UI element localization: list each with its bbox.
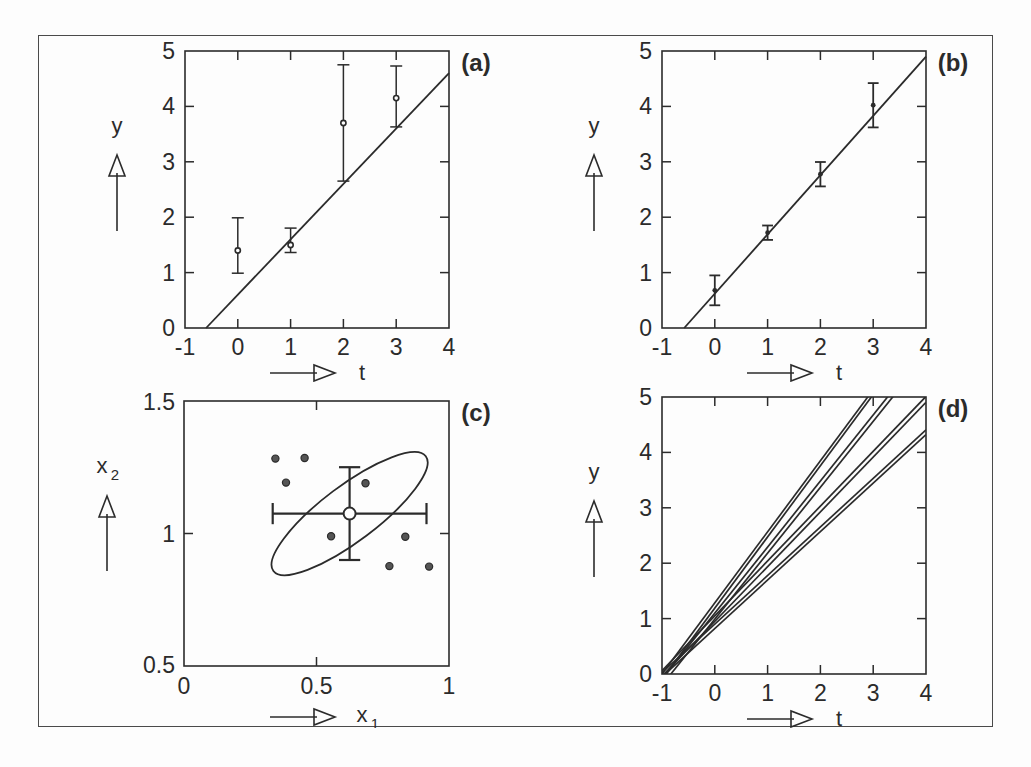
- svg-text:x: x: [357, 702, 368, 727]
- svg-text:0: 0: [639, 315, 652, 341]
- panel-d-svg: -1 0 1 2 3 4 0 1 2 3 4 5 y: [516, 381, 994, 728]
- y-tick-labels: 0 1 2 3 4 5: [639, 384, 652, 687]
- panel-d: -1 0 1 2 3 4 0 1 2 3 4 5 y: [516, 381, 994, 728]
- center-open-circle-marker: [344, 508, 356, 520]
- data-points: [712, 103, 875, 293]
- error-bars: [232, 65, 402, 273]
- x-axis-ticks: [238, 51, 396, 328]
- x-axis-open-arrow-right-icon: [747, 711, 812, 727]
- y-tick-labels: 0 1 2 3 4 5: [639, 38, 652, 341]
- svg-text:1: 1: [443, 673, 456, 699]
- x-axis-label: t: [836, 706, 842, 728]
- x-tick-labels: -1 0 1 2 3 4: [652, 680, 933, 706]
- svg-text:1: 1: [162, 260, 175, 286]
- svg-text:4: 4: [443, 334, 456, 360]
- y-axis-open-arrow-up-icon: [586, 155, 602, 231]
- svg-text:2: 2: [814, 680, 827, 706]
- panel-label-b: (b): [938, 49, 969, 76]
- panel-a-svg: -1 0 1 2 3 4 0 1 2 3 4 5 y: [39, 36, 517, 382]
- svg-text:4: 4: [920, 334, 933, 360]
- y-axis-ticks: [185, 106, 449, 272]
- y-axis-label: y: [589, 113, 600, 138]
- fit-line: [684, 57, 926, 328]
- y-tick-labels: 0 1 2 3 4 5: [162, 38, 175, 341]
- svg-text:3: 3: [867, 334, 880, 360]
- x-axis-ticks: [715, 397, 873, 674]
- svg-text:-1: -1: [652, 680, 672, 706]
- panel-b-svg: -1 0 1 2 3 4 0 1 2 3 4 5 y: [516, 36, 994, 382]
- x-axis-label: x 1: [357, 702, 380, 728]
- y-axis-open-arrow-up-icon: [99, 496, 115, 571]
- svg-text:1: 1: [371, 715, 379, 728]
- svg-text:2: 2: [639, 204, 652, 230]
- panel-a: -1 0 1 2 3 4 0 1 2 3 4 5 y: [39, 36, 517, 382]
- x-tick-labels: 0 0.5 1: [178, 673, 456, 699]
- y-axis-ticks: [662, 452, 926, 618]
- svg-text:5: 5: [162, 38, 175, 64]
- svg-text:0: 0: [231, 334, 244, 360]
- x-axis-label: t: [359, 360, 365, 382]
- figure-outer-border: -1 0 1 2 3 4 0 1 2 3 4 5 y: [38, 35, 993, 727]
- panel-label-a: (a): [461, 49, 490, 76]
- x-tick-labels: -1 0 1 2 3 4: [652, 334, 933, 360]
- x-axis-ticks: [715, 51, 873, 328]
- svg-text:1: 1: [639, 606, 652, 632]
- fit-line: [206, 73, 449, 328]
- svg-text:5: 5: [639, 38, 652, 64]
- svg-text:2: 2: [814, 334, 827, 360]
- y-axis-label: y: [589, 459, 600, 484]
- svg-text:1: 1: [162, 521, 175, 547]
- svg-text:x: x: [97, 453, 108, 478]
- y-axis-open-arrow-up-icon: [586, 501, 602, 577]
- svg-text:0: 0: [708, 680, 721, 706]
- svg-text:-1: -1: [652, 334, 672, 360]
- svg-text:3: 3: [639, 495, 652, 521]
- data-points: [235, 96, 399, 254]
- svg-text:3: 3: [162, 149, 175, 175]
- y-tick-labels: 0.5 1 1.5: [143, 389, 175, 678]
- y-axis-label: x 2: [97, 453, 120, 483]
- plot-frame: [662, 51, 926, 328]
- svg-text:5: 5: [639, 384, 652, 410]
- svg-text:2: 2: [639, 550, 652, 576]
- x-axis-label: t: [836, 360, 842, 382]
- y-axis-ticks: [662, 106, 926, 272]
- x-axis-open-arrow-right-icon: [270, 365, 335, 381]
- svg-text:3: 3: [867, 680, 880, 706]
- svg-text:3: 3: [639, 149, 652, 175]
- svg-text:4: 4: [639, 439, 652, 465]
- svg-text:1: 1: [284, 334, 297, 360]
- svg-text:1: 1: [761, 680, 774, 706]
- svg-text:2: 2: [111, 466, 119, 483]
- svg-text:0: 0: [639, 661, 652, 687]
- svg-text:1: 1: [639, 260, 652, 286]
- x-axis-open-arrow-right-icon: [747, 365, 812, 381]
- svg-text:0: 0: [162, 315, 175, 341]
- svg-text:0.5: 0.5: [143, 652, 175, 678]
- svg-text:0: 0: [708, 334, 721, 360]
- panel-b: -1 0 1 2 3 4 0 1 2 3 4 5 y: [516, 36, 994, 382]
- y-axis-open-arrow-up-icon: [109, 155, 125, 231]
- svg-text:4: 4: [162, 93, 175, 119]
- plot-frame: [184, 401, 449, 666]
- svg-text:1.5: 1.5: [143, 389, 175, 415]
- panel-label-d: (d): [938, 395, 969, 422]
- panel-c: 0 0.5 1 0.5 1 1.5 x 2: [39, 381, 517, 728]
- svg-text:0: 0: [178, 673, 191, 699]
- svg-text:4: 4: [639, 93, 652, 119]
- svg-text:0.5: 0.5: [301, 673, 333, 699]
- svg-text:1: 1: [761, 334, 774, 360]
- y-axis-label: y: [112, 113, 123, 138]
- panel-label-c: (c): [461, 399, 490, 426]
- x-tick-labels: -1 0 1 2 3 4: [175, 334, 456, 360]
- svg-text:-1: -1: [175, 334, 195, 360]
- svg-text:4: 4: [920, 680, 933, 706]
- x-axis-open-arrow-right-icon: [270, 709, 335, 725]
- sampled-regression-lines: [662, 381, 926, 685]
- plot-frame: [185, 51, 449, 328]
- panel-c-svg: 0 0.5 1 0.5 1 1.5 x 2: [39, 381, 517, 728]
- svg-text:2: 2: [337, 334, 350, 360]
- svg-text:3: 3: [390, 334, 403, 360]
- svg-text:2: 2: [162, 204, 175, 230]
